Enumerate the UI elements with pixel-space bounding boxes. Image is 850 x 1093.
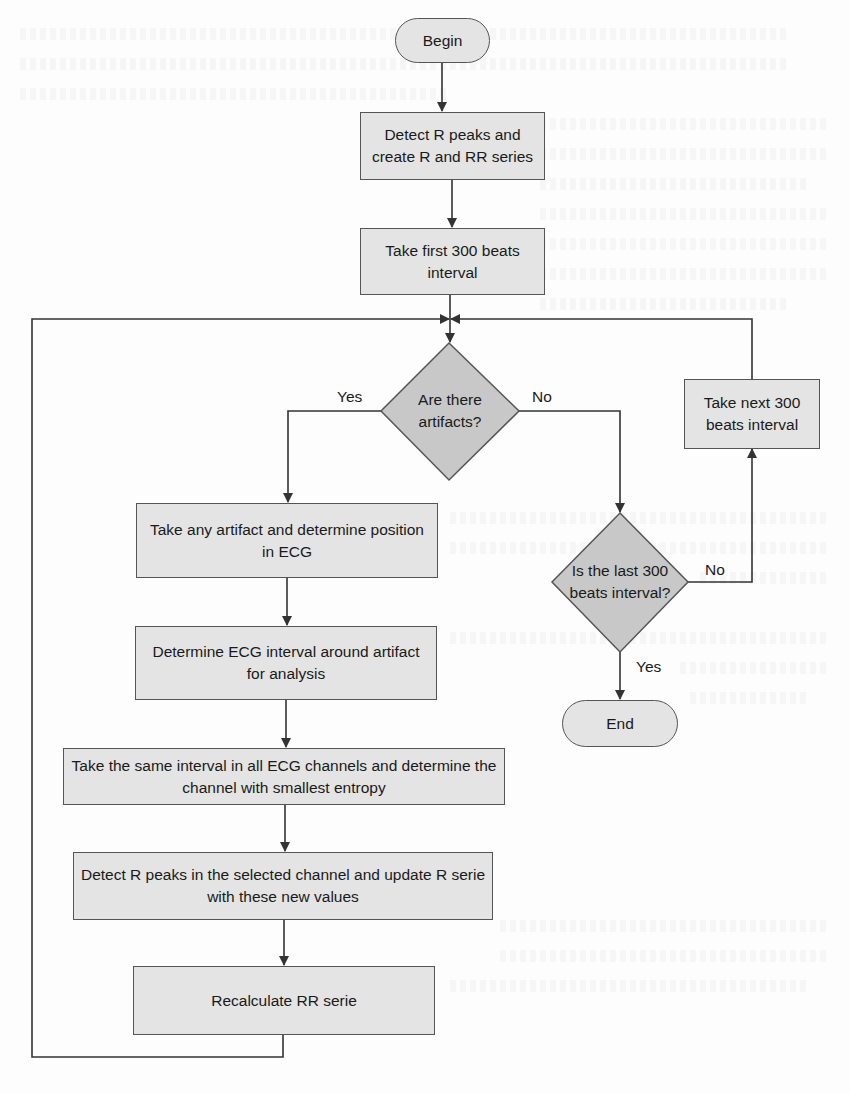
process-label: Recalculate RR serie — [211, 990, 357, 1012]
process-take-any-artifact: Take any artifact and determine position… — [136, 503, 438, 578]
edge-loop-back-right — [451, 319, 752, 379]
process-detect-selected-channel: Detect R peaks in the selected channel a… — [73, 852, 493, 920]
edge-label-artifacts-yes: Yes — [337, 388, 362, 406]
process-label: Detect R peaks in the selected channel a… — [80, 864, 486, 908]
edge-artifacts-no — [519, 411, 620, 512]
process-label: Take next 300 beats interval — [691, 392, 813, 436]
process-label: Determine ECG interval around artifact f… — [142, 641, 430, 685]
begin-terminal: Begin — [395, 18, 490, 63]
process-detect-r-peaks: Detect R peaks and create R and RR serie… — [360, 112, 545, 180]
decision-artifacts: Are there artifacts? — [396, 380, 504, 442]
process-take-next-interval: Take next 300 beats interval — [684, 379, 820, 449]
process-label: Take the same interval in all ECG channe… — [70, 755, 498, 799]
edge-label-last-no: No — [705, 561, 725, 579]
process-label: Take any artifact and determine position… — [143, 519, 431, 563]
process-recalculate-rr: Recalculate RR serie — [133, 966, 435, 1035]
end-terminal: End — [562, 700, 678, 747]
flowchart-canvas: Begin Detect R peaks and create R and RR… — [0, 0, 850, 1093]
process-label: Take first 300 beats interval — [367, 240, 538, 284]
process-take-same-interval: Take the same interval in all ECG channe… — [63, 748, 505, 805]
process-take-first-interval: Take first 300 beats interval — [360, 228, 545, 295]
edge-artifacts-yes — [288, 411, 381, 502]
decision-last-interval: Is the last 300 beats interval? — [562, 546, 678, 618]
edge-label-last-yes: Yes — [636, 658, 661, 676]
decision-label: Are there artifacts? — [396, 389, 504, 433]
process-determine-interval: Determine ECG interval around artifact f… — [135, 626, 437, 700]
end-label: End — [606, 713, 634, 735]
begin-label: Begin — [423, 30, 463, 52]
decision-label: Is the last 300 beats interval? — [562, 560, 678, 604]
process-label: Detect R peaks and create R and RR serie… — [367, 124, 538, 168]
edge-label-artifacts-no: No — [532, 388, 552, 406]
